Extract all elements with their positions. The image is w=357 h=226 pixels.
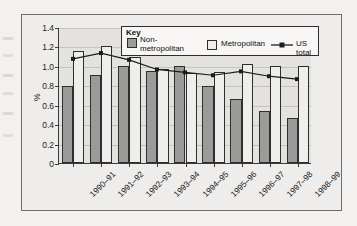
y-tick-mark bbox=[55, 125, 59, 126]
scan-noise-artifact bbox=[3, 34, 13, 154]
y-tick-label: 0.8 bbox=[42, 81, 54, 91]
y-tick-label: 0 bbox=[49, 159, 54, 169]
legend-title: Key bbox=[126, 28, 141, 37]
x-tick-mark bbox=[101, 163, 102, 167]
y-tick-mark bbox=[55, 47, 59, 48]
chart-legend: Key Non- metropolitan Metropolitan US to… bbox=[121, 26, 319, 56]
bar-metropolitan bbox=[242, 64, 253, 163]
legend-label-us-total: US total bbox=[296, 40, 318, 57]
y-tick-mark bbox=[55, 28, 59, 29]
x-tick-label: 1990–91 bbox=[88, 169, 118, 199]
y-tick-label: 1.0 bbox=[42, 62, 54, 72]
bar-metropolitan bbox=[270, 66, 281, 163]
legend-swatch-metropolitan bbox=[207, 40, 217, 50]
bar-metropolitan bbox=[101, 46, 112, 163]
legend-swatch-non-metropolitan bbox=[127, 38, 137, 48]
x-tick-label: 1995–96 bbox=[228, 169, 258, 199]
x-tick-label: 1994–95 bbox=[200, 169, 230, 199]
x-tick-label: 1993–94 bbox=[172, 169, 202, 199]
bar-metropolitan bbox=[214, 72, 225, 163]
bar-non-metropolitan bbox=[118, 66, 129, 163]
legend-line-marker-us-total bbox=[271, 40, 293, 50]
x-tick-label: 1998–99 bbox=[312, 169, 342, 199]
x-tick-label: 1996–97 bbox=[256, 169, 286, 199]
x-tick-mark bbox=[157, 163, 158, 167]
y-tick-label: 1.2 bbox=[42, 42, 54, 52]
bar-non-metropolitan bbox=[90, 75, 101, 163]
legend-label-non-metropolitan: Non- metropolitan bbox=[140, 36, 184, 53]
bar-metropolitan bbox=[73, 51, 84, 163]
x-tick-label: 1991–92 bbox=[116, 169, 146, 199]
x-tick-mark bbox=[73, 163, 74, 167]
x-tick-mark bbox=[129, 163, 130, 167]
y-tick-label: 0.4 bbox=[42, 120, 54, 130]
legend-label-metropolitan: Metropolitan bbox=[221, 40, 265, 49]
chart-figure: % 00.20.40.60.81.01.21.4 1990–911991–921… bbox=[21, 14, 342, 211]
y-tick-mark bbox=[55, 164, 59, 165]
bar-non-metropolitan bbox=[259, 111, 270, 163]
x-tick-mark bbox=[298, 163, 299, 167]
y-tick-mark bbox=[55, 106, 59, 107]
x-tick-mark bbox=[186, 163, 187, 167]
y-tick-mark bbox=[55, 67, 59, 68]
bar-non-metropolitan bbox=[146, 71, 157, 163]
x-tick-label: 1992–93 bbox=[144, 169, 174, 199]
bar-metropolitan bbox=[186, 73, 197, 163]
bar-non-metropolitan bbox=[230, 99, 241, 163]
bar-non-metropolitan bbox=[287, 118, 298, 163]
bar-metropolitan bbox=[129, 57, 140, 163]
page-background: % 00.20.40.60.81.01.21.4 1990–911991–921… bbox=[0, 0, 357, 226]
y-axis-title: % bbox=[32, 93, 42, 101]
y-tick-label: 0.2 bbox=[42, 140, 54, 150]
bar-non-metropolitan bbox=[62, 86, 73, 163]
y-tick-label: 0.6 bbox=[42, 101, 54, 111]
bar-non-metropolitan bbox=[174, 66, 185, 163]
y-tick-mark bbox=[55, 86, 59, 87]
x-tick-mark bbox=[214, 163, 215, 167]
y-tick-mark bbox=[55, 145, 59, 146]
bar-metropolitan bbox=[157, 69, 168, 163]
bar-metropolitan bbox=[298, 66, 309, 163]
y-tick-label: 1.4 bbox=[42, 23, 54, 33]
bar-non-metropolitan bbox=[202, 86, 213, 163]
x-tick-mark bbox=[242, 163, 243, 167]
x-tick-label: 1997–98 bbox=[284, 169, 314, 199]
x-tick-mark bbox=[270, 163, 271, 167]
